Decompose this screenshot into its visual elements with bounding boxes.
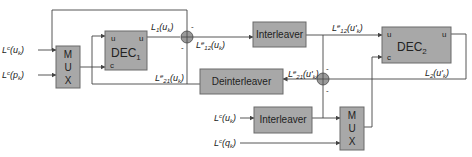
dec2-port-u-in: u — [387, 30, 391, 39]
dec2-port-u-out: u — [442, 30, 446, 39]
mux1-letter-x: X — [65, 75, 72, 86]
label-le21-uk-prime: Le21(u'k) — [288, 69, 319, 80]
label-l2-uk-prime: L2(u'k) — [425, 68, 449, 79]
label-lc-pk: Lc(pk) — [2, 70, 24, 81]
summer-1: - - — [181, 22, 194, 52]
mux2-letter-u: U — [348, 123, 355, 134]
interleaver-top-block: Interleaver — [253, 22, 306, 47]
label-le12-uk-prime: Le12(u'k) — [332, 23, 363, 34]
label-lc-qk: Lc(qk) — [214, 138, 236, 149]
label-l1-uk: L1(uk) — [151, 22, 173, 33]
mux1-letter-m: M — [64, 49, 72, 60]
label-lc-uk-bottom: Lc(uk) — [214, 113, 236, 124]
summer-1-sign-top: - — [191, 22, 194, 31]
dec2-block: u u c DEC2 — [382, 27, 451, 63]
dec1-block: u u c DEC1 — [105, 31, 147, 70]
mux2-letter-m: M — [348, 110, 356, 121]
label-lc-uk: Lc(uk) — [2, 45, 24, 56]
dec1-port-u-in: u — [111, 34, 115, 43]
wire-mux1-dec1-u — [80, 36, 105, 67]
dec2-port-c: c — [387, 53, 391, 62]
summer-2-sign-top: - — [326, 64, 329, 73]
interleaver-bottom-label: Interleaver — [259, 114, 307, 125]
interleaver-bottom-block: Interleaver — [254, 107, 312, 133]
dec1-port-c: c — [110, 61, 114, 70]
deinterleaver-block: Deinterleaver — [200, 69, 283, 94]
summer-1-sign-bottom: - — [181, 43, 184, 52]
mux2-letter-x: X — [349, 136, 356, 147]
dec1-port-u-out: u — [139, 34, 143, 43]
label-le12-uk: Le12(uk) — [196, 40, 225, 51]
wire-mux2-dec2 — [364, 57, 382, 127]
mux2-block: M U X — [340, 107, 364, 150]
summer-2-sign-bottom: - — [326, 86, 329, 95]
turbo-decoder-diagram: M U X u u c DEC1 Interleaver Deinterleav… — [0, 0, 472, 157]
mux1-block: M U X — [56, 46, 80, 88]
mux1-letter-u: U — [64, 62, 71, 73]
deinterleaver-label: Deinterleaver — [212, 76, 272, 87]
interleaver-top-label: Interleaver — [256, 29, 304, 40]
label-le21-uk: Le21(uk) — [155, 73, 184, 84]
